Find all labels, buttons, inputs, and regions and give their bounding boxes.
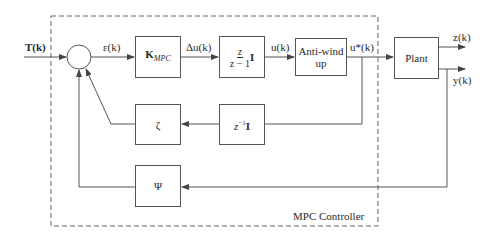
y-output-label: y(k) (453, 74, 471, 86)
zeta-label: ζ (156, 119, 161, 131)
integrator-num: z (237, 46, 243, 58)
psi-label: Ψ (154, 180, 162, 192)
delay-suffix: I (246, 120, 250, 132)
u-star-signal-label: u*(k) (350, 41, 374, 53)
integrator-block: zz − 1I (219, 36, 265, 78)
antiwindup-line1: Anti-wind (298, 45, 343, 57)
z-output-label: z(k) (453, 31, 471, 43)
zeta-block: ζ (135, 104, 181, 145)
plant-block: Plant (394, 37, 439, 79)
summing-junction (67, 45, 91, 69)
delay-exp: −1 (238, 119, 245, 127)
psi-block: Ψ (135, 165, 181, 207)
input-signal-label: T(k) (25, 41, 46, 53)
u-signal-label: u(k) (271, 41, 289, 53)
kmpc-sub: MPC (154, 55, 171, 64)
antiwindup-line2: up (316, 57, 327, 69)
integrator-den: z − 1 (230, 58, 250, 69)
kmpc-main: K (145, 48, 154, 60)
delay-block: z−1I (219, 104, 265, 145)
antiwindup-block: Anti-wind up (295, 38, 347, 76)
controller-label: MPC Controller (293, 210, 364, 222)
error-signal-label: ε(k) (103, 41, 120, 53)
kmpc-block: KMPC (135, 36, 181, 78)
delta-u-signal-label: Δu(k) (186, 41, 211, 53)
integrator-suffix: I (250, 51, 254, 63)
plant-label: Plant (405, 52, 428, 64)
